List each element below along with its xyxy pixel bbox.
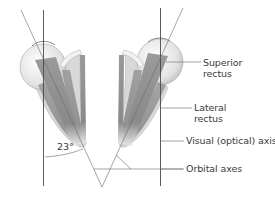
angle-label: 23° <box>57 141 74 152</box>
orbital-axes-label: Orbital axes <box>186 163 242 174</box>
superior-rectus-label: Superior rectus <box>203 57 242 79</box>
orbital-axes-diagonal-tick <box>116 155 131 169</box>
left-eye-with-muscles <box>20 41 86 147</box>
visual-axis-label: Visual (optical) axis <box>186 135 275 146</box>
lateral-rectus-label: Lateral rectus <box>194 102 226 124</box>
right-eye-with-muscles <box>118 38 183 147</box>
right-orbital-axis-line <box>102 8 183 187</box>
left-orbital-axis-line <box>21 10 102 187</box>
